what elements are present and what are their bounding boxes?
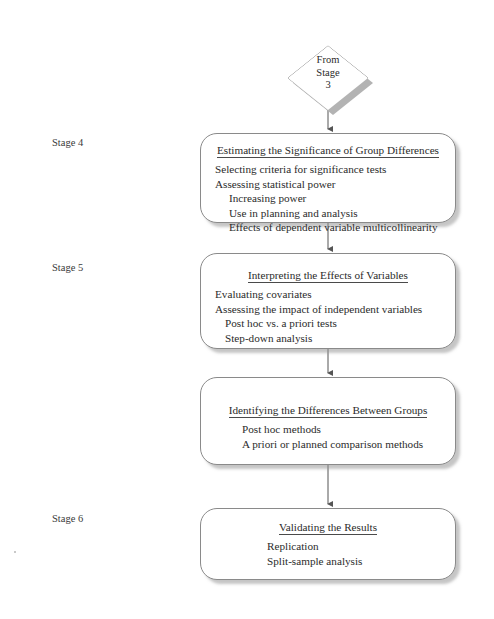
- list-item: Replication: [263, 539, 455, 554]
- entry-node-label: From Stage 3: [288, 54, 368, 92]
- node-title: Estimating the Significance of Group Dif…: [201, 143, 455, 158]
- list-item: Increasing power: [215, 191, 455, 206]
- entry-node-from-stage-3: From Stage 3: [288, 46, 368, 110]
- list-item: Assessing statistical power: [215, 177, 455, 192]
- process-node-identifying-differences: Identifying the Differences Between Grou…: [200, 377, 456, 465]
- list-item: Post hoc methods: [234, 422, 455, 437]
- list-item: Selecting criteria for significance test…: [215, 162, 455, 177]
- stage-label-4: Stage 4: [52, 137, 83, 148]
- process-node-validating-results: Validating the Results Replication Split…: [200, 508, 456, 580]
- list-item: Post hoc vs. a priori tests: [215, 316, 455, 331]
- entry-node-line-3: 3: [288, 79, 368, 92]
- node-item-list: Evaluating covariates Assessing the impa…: [201, 287, 455, 345]
- list-item: Split-sample analysis: [263, 554, 455, 569]
- page-artifact-speck: [14, 551, 16, 553]
- entry-node-line-1: From: [288, 54, 368, 67]
- stage-label-5: Stage 5: [52, 262, 83, 273]
- process-node-estimating-significance: Estimating the Significance of Group Dif…: [200, 133, 456, 223]
- list-item: Step-down analysis: [215, 331, 455, 346]
- list-item: Evaluating covariates: [215, 287, 455, 302]
- node-title: Interpreting the Effects of Variables: [201, 268, 455, 283]
- stage-label-6: Stage 6: [52, 513, 83, 524]
- process-node-interpreting-effects: Interpreting the Effects of Variables Ev…: [200, 253, 456, 349]
- list-item: Use in planning and analysis: [215, 206, 455, 221]
- entry-node-line-2: Stage: [288, 67, 368, 80]
- list-item: A priori or planned comparison methods: [234, 437, 455, 452]
- node-item-list: Post hoc methods A priori or planned com…: [201, 422, 455, 451]
- node-title: Validating the Results: [201, 520, 455, 535]
- node-item-list: Selecting criteria for significance test…: [201, 162, 455, 235]
- list-item: Assessing the impact of independent vari…: [215, 302, 455, 317]
- list-item: Effects of dependent variable multicolli…: [215, 220, 455, 235]
- node-title: Identifying the Differences Between Grou…: [201, 403, 455, 418]
- node-item-list: Replication Split-sample analysis: [201, 539, 455, 568]
